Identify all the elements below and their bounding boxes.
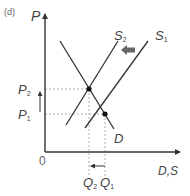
supply-s1-label: S1 bbox=[155, 29, 168, 43]
equilibrium-point-e1 bbox=[102, 111, 107, 116]
quantity-q1-label: Q1 bbox=[100, 176, 114, 190]
supply-s1-label-main: S bbox=[155, 28, 164, 43]
guide-lines bbox=[45, 89, 105, 176]
supply-s2-label: S2 bbox=[114, 29, 127, 43]
quantity-q2-label: Q2 bbox=[83, 176, 97, 190]
quantity-q2-label-main: Q bbox=[83, 175, 93, 190]
y-axis-label: P bbox=[31, 9, 40, 23]
supply-s1-label-sub: 1 bbox=[164, 36, 168, 43]
supply-shift-arrow-icon bbox=[121, 45, 135, 55]
price-p1-label-main: P bbox=[18, 107, 27, 122]
quantity-q2-label-sub: 2 bbox=[93, 183, 97, 190]
equilibrium-point-e2 bbox=[86, 86, 91, 91]
price-p1-label-sub: 1 bbox=[27, 115, 31, 122]
supply-curve-s1 bbox=[85, 41, 148, 128]
supply-s2-label-main: S bbox=[114, 28, 123, 43]
price-p2-label-sub: 2 bbox=[27, 90, 31, 97]
quantity-q1-label-sub: 1 bbox=[110, 183, 114, 190]
price-p2-label-main: P bbox=[18, 82, 27, 97]
origin-label: 0 bbox=[39, 155, 46, 167]
price-p2-label: P2 bbox=[18, 83, 31, 97]
price-p1-label: P1 bbox=[18, 108, 31, 122]
supply-curve-s2 bbox=[66, 41, 118, 125]
demand-label: D bbox=[114, 132, 123, 145]
supply-s2-label-sub: 2 bbox=[123, 36, 127, 43]
x-axis-label: D,S bbox=[158, 165, 178, 177]
quantity-q1-label-main: Q bbox=[100, 175, 110, 190]
panel-label: (d) bbox=[4, 8, 15, 17]
